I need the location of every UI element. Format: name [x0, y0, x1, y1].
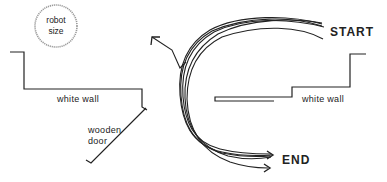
robot-label-line2: size [36, 26, 76, 37]
wooden-door-label-line2: door [88, 137, 107, 146]
wooden-door-label-line1: wooden [88, 126, 121, 135]
end-label: END [282, 154, 310, 166]
start-label: START [330, 26, 374, 38]
robot-label-line1: robot [36, 15, 76, 26]
robot-trajectories [180, 18, 324, 168]
branch-trajectory [152, 37, 186, 68]
left-wall-label: white wall [57, 95, 99, 104]
robot-size-label: robot size [36, 15, 76, 37]
right-wall-label: white wall [302, 95, 344, 104]
